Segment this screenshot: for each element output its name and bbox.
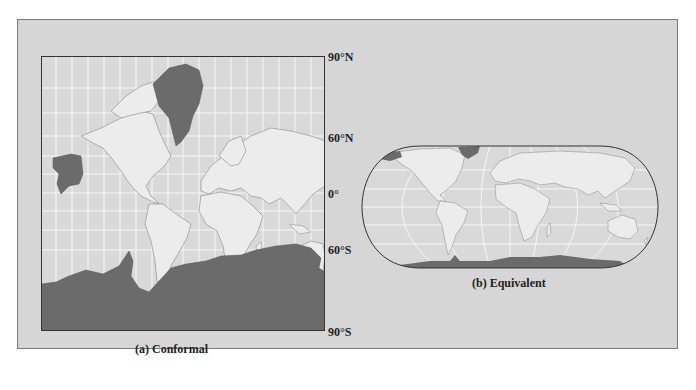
latitude-label-0: 0°: [328, 188, 339, 200]
latitude-label-90n: 90°N: [328, 51, 353, 63]
latitude-label-60s: 60°S: [328, 244, 351, 256]
conformal-map: [41, 56, 325, 331]
caption-conformal: (a) Conformal: [135, 342, 208, 357]
equivalent-map: [360, 143, 660, 271]
latitude-label-60n: 60°N: [328, 132, 353, 144]
caption-equivalent: (b) Equivalent: [472, 276, 546, 291]
conformal-map-graphic: [41, 56, 325, 331]
equivalent-map-graphic: [360, 143, 660, 271]
latitude-label-90s: 90°S: [328, 326, 351, 338]
